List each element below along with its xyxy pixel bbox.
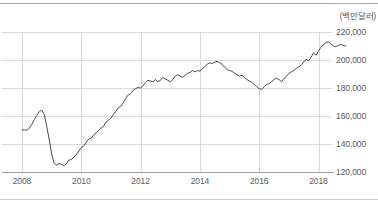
x-tick-label-2010: 2010	[72, 176, 91, 186]
x-tick-label-2012: 2012	[131, 176, 150, 186]
series-line-path	[22, 42, 346, 166]
y-tick-label-200000: 200,000	[336, 55, 366, 65]
y-tick-label-220000: 220,000	[336, 27, 366, 37]
y-axis-unit-label: (백만달러)	[340, 9, 376, 21]
x-axis-line	[2, 172, 334, 173]
y-tick-label-140000: 140,000	[336, 139, 366, 149]
series-plot	[2, 32, 332, 172]
bottom-divider-rule	[0, 199, 378, 200]
x-tick-label-2018: 2018	[309, 176, 328, 186]
y-tick-label-160000: 160,000	[336, 111, 366, 121]
x-tick-label-2008: 2008	[13, 176, 32, 186]
plot-area	[2, 32, 332, 172]
top-divider-rule	[0, 3, 378, 4]
y-tick-label-180000: 180,000	[336, 83, 366, 93]
x-tick-label-2014: 2014	[191, 176, 210, 186]
x-tick-label-2016: 2016	[250, 176, 269, 186]
y-tick-label-120000: 120,000	[336, 167, 366, 177]
chart-figure: (백만달러) 220,000200,000180,000160,000140,0…	[0, 0, 378, 205]
